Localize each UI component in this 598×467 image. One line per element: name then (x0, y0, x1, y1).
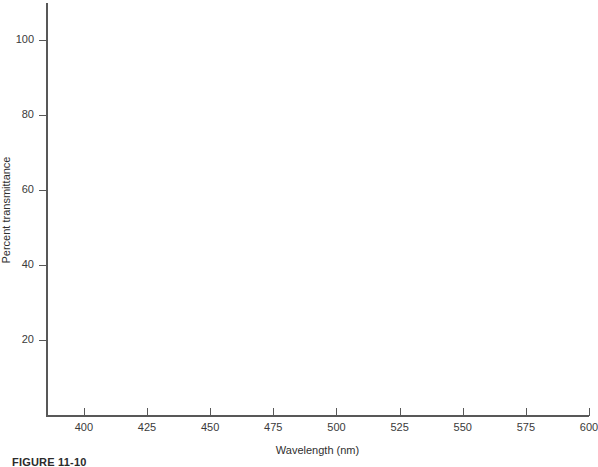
x-axis-tick-label: 400 (75, 421, 93, 433)
x-axis-tick-label: 475 (264, 421, 282, 433)
y-axis-tick-label: 20 (22, 334, 34, 345)
x-axis-tick-label: 525 (390, 421, 408, 433)
x-axis-tick-label: 500 (327, 421, 345, 433)
x-axis-title: Wavelength (nm) (46, 444, 589, 457)
x-axis-tick (526, 408, 527, 416)
y-axis-title: Percent transmittance (0, 110, 13, 310)
x-axis-tick-label: 575 (517, 421, 535, 433)
y-axis-tick-label: 100 (16, 34, 34, 45)
x-axis-tick-label: 600 (580, 421, 598, 433)
y-axis-tick-label: 40 (22, 259, 34, 270)
x-axis-tick (336, 408, 337, 416)
y-axis-tick (39, 40, 47, 41)
x-axis-tick-label: 450 (201, 421, 219, 433)
x-axis-tick-label: 550 (454, 421, 472, 433)
x-axis-tick (400, 408, 401, 416)
x-axis-tick (84, 408, 85, 416)
x-axis-tick-label: 425 (138, 421, 156, 433)
x-axis-tick (273, 408, 274, 416)
x-axis-tick (589, 408, 590, 416)
y-axis-tick (39, 265, 47, 266)
x-axis-tick (147, 408, 148, 416)
x-axis-line (46, 415, 589, 417)
y-axis-tick (39, 115, 47, 116)
plot-area (48, 3, 589, 415)
x-axis-tick (463, 408, 464, 416)
y-axis-tick-label: 80 (22, 109, 34, 120)
y-axis-tick (39, 190, 47, 191)
x-axis-tick (210, 408, 211, 416)
y-axis-tick (39, 340, 47, 341)
y-axis-tick-label: 60 (22, 184, 34, 195)
figure-caption: FIGURE 11-10 (12, 456, 87, 467)
